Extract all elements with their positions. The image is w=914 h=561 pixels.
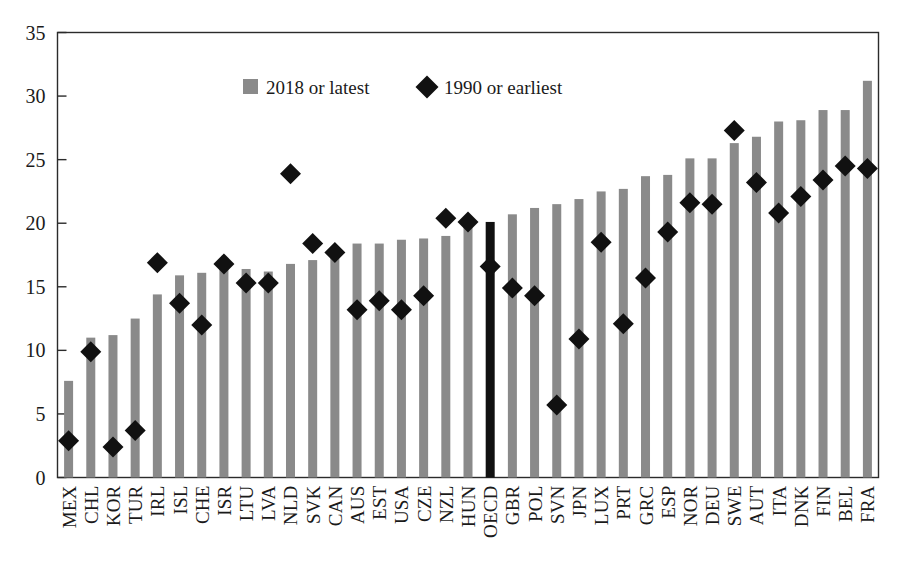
diamond-marker-gbr [502, 278, 523, 299]
y-tick-label: 0 [36, 467, 46, 489]
diamond-marker-nld [280, 163, 301, 184]
diamond-marker-cze [413, 285, 434, 306]
bar-nzl [441, 236, 450, 478]
bar-svn [552, 204, 561, 477]
x-axis-label-can: CAN [325, 485, 346, 526]
bar-nld [286, 264, 295, 478]
x-axis-label-pol: POL [525, 486, 546, 523]
bar-cze [419, 238, 428, 477]
x-axis-label-prt: PRT [613, 485, 634, 519]
diamond-marker-nzl [435, 208, 456, 229]
diamond-marker-lux [591, 232, 612, 253]
diamond-marker-che [191, 314, 212, 335]
bar-chart: 05101520253035 MEXCHLKORTURIRLISLCHEISRL… [0, 0, 914, 561]
bar-pol [530, 208, 539, 478]
bar-swe [730, 143, 739, 477]
x-axis-label-aut: AUT [746, 485, 767, 525]
diamond-marker-aus [347, 299, 368, 320]
diamond-marker-est [369, 290, 390, 311]
legend-swatch-square [243, 79, 258, 94]
x-axis-label-fra: FRA [857, 485, 878, 523]
bars-layer [64, 81, 872, 478]
diamond-marker-usa [391, 299, 412, 320]
diamond-marker-swe [724, 120, 745, 141]
y-tick-label: 5 [36, 403, 46, 425]
x-axis-label-grc: GRC [636, 486, 657, 526]
diamond-marker-tur [125, 420, 146, 441]
diamond-marker-lva [258, 272, 279, 293]
x-axis-label-ita: ITA [769, 485, 790, 516]
x-axis-label-nor: NOR [680, 485, 701, 526]
x-axis-label-hun: HUN [458, 485, 479, 527]
x-axis-label-mex: MEX [59, 485, 80, 528]
bar-esp [663, 175, 672, 478]
bar-ltu [242, 269, 251, 478]
y-tick-label: 20 [26, 212, 46, 234]
diamond-marker-chl [80, 341, 101, 362]
bar-dnk [796, 120, 805, 477]
bar-grc [641, 176, 650, 477]
y-tick-label: 10 [26, 339, 46, 361]
x-axis-label-lva: LVA [258, 485, 279, 521]
legend-label-1990: 1990 or earliest [444, 77, 563, 98]
x-axis-label-irl: IRL [147, 486, 168, 517]
bar-est [375, 244, 384, 478]
diamond-marker-deu [702, 194, 723, 215]
bar-ita [774, 122, 783, 478]
x-axis-label-oecd: OECD [480, 486, 501, 539]
diamond-marker-aut [746, 172, 767, 193]
chart-container: 05101520253035 MEXCHLKORTURIRLISLCHEISRL… [0, 0, 914, 561]
x-axis-label-est: EST [369, 485, 390, 520]
diamond-marker-jpn [568, 328, 589, 349]
x-axis-category-labels: MEXCHLKORTURIRLISLCHEISRLTULVANLDSVKCANA… [59, 485, 879, 538]
diamond-marker-kor [102, 436, 123, 457]
diamond-marker-oecd [480, 256, 501, 277]
y-tick-label: 35 [26, 22, 46, 44]
diamond-marker-can [324, 242, 345, 263]
diamond-marker-irl [147, 252, 168, 273]
diamond-marker-prt [613, 313, 634, 334]
x-axis-label-swe: SWE [724, 486, 745, 527]
x-axis-label-che: CHE [192, 486, 213, 525]
diamond-marker-hun [458, 211, 479, 232]
chart-legend: 2018 or latest1990 or earliest [243, 76, 563, 99]
bar-svk [308, 260, 317, 477]
diamond-marker-dnk [790, 186, 811, 207]
x-axis-label-nld: NLD [280, 486, 301, 526]
x-axis-label-isr: ISR [214, 485, 235, 515]
y-tick-label: 25 [26, 149, 46, 171]
bar-che [197, 273, 206, 478]
x-axis-label-isl: ISL [170, 486, 191, 515]
bar-hun [464, 224, 473, 477]
x-axis-label-deu: DEU [702, 485, 723, 525]
bar-mex [64, 381, 73, 478]
x-axis-label-aus: AUS [347, 486, 368, 525]
diamond-marker-mex [58, 430, 79, 451]
bar-fin [819, 110, 828, 477]
diamond-marker-ita [768, 203, 789, 224]
x-axis-label-fin: FIN [813, 485, 834, 516]
diamond-marker-bel [835, 156, 856, 177]
diamond-marker-ltu [236, 272, 257, 293]
x-axis-label-nzl: NZL [436, 486, 457, 524]
x-axis-label-svn: SVN [547, 485, 568, 524]
diamond-marker-svn [546, 395, 567, 416]
legend-label-2018: 2018 or latest [266, 77, 370, 98]
x-axis-label-chl: CHL [81, 486, 102, 525]
diamond-marker-svk [302, 233, 323, 254]
y-tick-label: 30 [26, 85, 46, 107]
bar-lva [264, 272, 273, 478]
diamond-marker-fra [857, 158, 878, 179]
bar-usa [397, 240, 406, 478]
x-axis-label-lux: LUX [591, 485, 612, 525]
bar-tur [131, 319, 140, 478]
x-axis-label-kor: KOR [103, 485, 124, 526]
x-axis-label-bel: BEL [835, 486, 856, 523]
diamond-marker-isr [213, 253, 234, 274]
x-axis-label-gbr: GBR [502, 485, 523, 525]
x-axis-label-esp: ESP [658, 486, 679, 519]
bar-isr [219, 264, 228, 478]
diamond-marker-nor [679, 192, 700, 213]
x-axis-label-tur: TUR [125, 485, 146, 524]
x-axis-label-jpn: JPN [569, 485, 590, 517]
